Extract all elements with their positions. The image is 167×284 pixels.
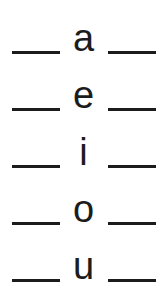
vowel-row: o [0, 171, 167, 228]
blank-line-left[interactable] [12, 108, 60, 111]
blank-line-left[interactable] [12, 51, 60, 54]
vowel-row: i [0, 114, 167, 171]
blank-line-left[interactable] [12, 279, 60, 282]
vowel-row: a [0, 0, 167, 57]
blank-line-right[interactable] [108, 51, 156, 54]
vowel-letter: o [65, 190, 103, 228]
vowel-letter: u [65, 247, 103, 284]
blank-line-right[interactable] [108, 165, 156, 168]
blank-line-right[interactable] [108, 108, 156, 111]
blank-line-right[interactable] [108, 279, 156, 282]
blank-line-left[interactable] [12, 222, 60, 225]
vowel-row: u [0, 228, 167, 284]
blank-line-left[interactable] [12, 165, 60, 168]
vowel-worksheet: a e i o u [0, 0, 167, 284]
vowel-letter: e [65, 76, 103, 114]
blank-line-right[interactable] [108, 222, 156, 225]
vowel-letter: i [65, 133, 103, 171]
vowel-row: e [0, 57, 167, 114]
vowel-letter: a [65, 19, 103, 57]
